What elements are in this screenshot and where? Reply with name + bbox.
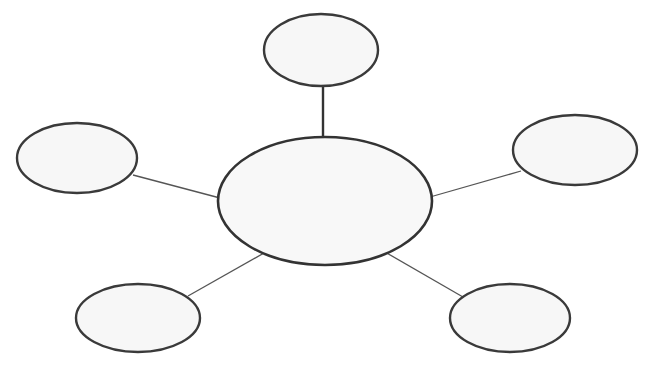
satellite-node-left [17,123,137,193]
center-node [218,137,432,265]
satellite-ellipse-bottom-right [450,284,570,352]
connector-line-bottom-left [188,253,264,296]
center-ellipse [218,137,432,265]
satellite-ellipse-top [264,14,378,86]
connector-line-bottom-right [385,252,463,297]
satellite-ellipse-left [17,123,137,193]
connector-line-left [133,175,220,198]
connector-line-right [430,171,521,197]
satellite-node-bottom-right [450,284,570,352]
bubble-map-diagram [0,0,652,367]
satellite-node-top [264,14,378,86]
satellite-ellipse-bottom-left [76,284,200,352]
nodes [17,14,637,352]
satellite-ellipse-right [513,115,637,185]
satellite-node-right [513,115,637,185]
satellite-node-bottom-left [76,284,200,352]
